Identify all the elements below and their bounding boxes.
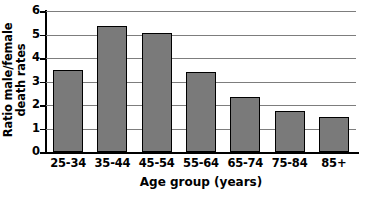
x-tick-label-25-34: 25-34 <box>46 156 90 170</box>
x-axis-tick-labels: 25-3435-4445-5455-6465-7475-8485+ <box>46 156 356 174</box>
x-tick-label-45-54: 45-54 <box>135 156 179 170</box>
plot-area <box>46 11 356 152</box>
x-axis-line <box>43 152 359 154</box>
bar-55-64 <box>186 72 216 152</box>
y-tick-label-0: 0 <box>22 146 40 158</box>
x-tick-label-55-64: 55-64 <box>179 156 223 170</box>
y-tick-label-3: 3 <box>22 76 40 88</box>
bar-75-84 <box>275 111 305 152</box>
bar-35-44 <box>97 26 127 152</box>
bar-45-54 <box>142 33 172 152</box>
bar-65-74 <box>230 97 260 152</box>
x-tick-label-85+: 85+ <box>312 156 356 170</box>
y-tick-label-4: 4 <box>22 52 40 64</box>
y-tick-label-1: 1 <box>22 123 40 135</box>
y-tick-label-6: 6 <box>22 5 40 17</box>
x-tick-label-35-44: 35-44 <box>90 156 134 170</box>
gridline-4 <box>46 58 356 59</box>
bar-chart: Ratio male/female death rates 0123456 25… <box>0 0 370 198</box>
gridline-6 <box>46 11 356 12</box>
y-axis-ticks: 0123456 <box>0 0 40 198</box>
gridline-5 <box>46 35 356 36</box>
y-tick-label-5: 5 <box>22 29 40 41</box>
x-tick-label-65-74: 65-74 <box>223 156 267 170</box>
x-axis-title: Age group (years) <box>46 175 356 189</box>
bar-85+ <box>319 117 349 152</box>
bar-25-34 <box>53 70 83 152</box>
y-tick-label-2: 2 <box>22 99 40 111</box>
x-tick-label-75-84: 75-84 <box>267 156 311 170</box>
